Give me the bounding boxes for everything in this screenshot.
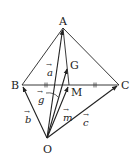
triangle-abc xyxy=(22,28,119,85)
label-point-c: C xyxy=(121,79,129,92)
label-point-a: A xyxy=(58,15,68,28)
vector-diagram: A B C M G O a → g → b → m → c → xyxy=(0,0,136,161)
vector-g-arrow xyxy=(47,69,67,138)
label-vector-b-arrow: → xyxy=(24,108,30,116)
label-vector-a-arrow: → xyxy=(46,61,52,69)
label-vector-c-arrow: → xyxy=(83,111,89,119)
g-label-pointer xyxy=(46,93,58,97)
label-vector-g-arrow: → xyxy=(37,88,43,96)
vector-a-arrow xyxy=(47,30,63,138)
label-vector-m-arrow: → xyxy=(63,106,69,114)
edge-ab xyxy=(22,28,63,85)
label-point-m: M xyxy=(71,86,82,99)
label-point-o: O xyxy=(43,143,52,156)
median-am xyxy=(63,28,69,85)
edge-ac xyxy=(63,28,119,85)
label-point-b: B xyxy=(11,79,19,92)
label-point-g: G xyxy=(70,59,79,72)
